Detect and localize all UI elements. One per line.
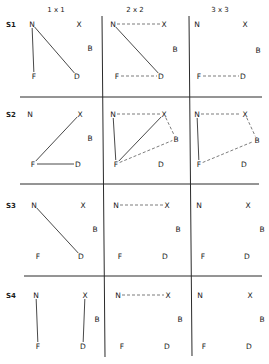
node-f: F <box>118 252 122 261</box>
node-x: X <box>247 291 252 300</box>
node-x: X <box>245 201 250 210</box>
node-f: F <box>120 342 124 351</box>
edge-n-f-solid <box>113 118 116 160</box>
node-n: N <box>194 110 200 119</box>
node-f: F <box>201 252 205 261</box>
node-x: X <box>165 291 170 300</box>
node-b: B <box>172 45 177 54</box>
node-n: N <box>113 201 119 210</box>
node-f: F <box>36 342 40 351</box>
node-f: F <box>197 72 201 81</box>
node-n: N <box>31 201 37 210</box>
node-n: N <box>27 110 33 119</box>
node-b: B <box>87 134 92 143</box>
row-label: S3 <box>6 202 16 210</box>
node-x: X <box>76 20 81 29</box>
node-b: B <box>255 46 260 55</box>
node-b: B <box>254 136 259 145</box>
node-d: D <box>75 160 81 169</box>
network-cell: NXBFD <box>197 291 264 351</box>
node-d: D <box>80 342 86 351</box>
node-x: X <box>77 110 82 119</box>
node-f: F <box>114 160 118 169</box>
node-x: X <box>80 201 85 210</box>
edge-n-f-solid <box>32 28 34 72</box>
edge-n-f-solid <box>197 118 199 160</box>
edge-n-d-solid <box>35 27 75 73</box>
node-f: F <box>197 160 201 169</box>
node-b: B <box>87 44 92 53</box>
network-cell: NXBFD <box>31 201 97 261</box>
network-grid-diagram: 1 x 12 x 23 x 3 S1S2S3S4 NXBFDNXBFDNXBFD… <box>0 0 269 364</box>
node-x: X <box>164 201 169 210</box>
network-cell: NXBFD <box>194 110 259 169</box>
node-n: N <box>197 291 203 300</box>
column-header: 3 x 3 <box>211 6 229 14</box>
network-cell: NXBFD <box>113 201 180 261</box>
network-cell: NXBFD <box>194 20 260 81</box>
edge-n-f-solid <box>36 299 38 342</box>
node-x: X <box>242 110 247 119</box>
edge-f-x-solid <box>36 117 78 161</box>
network-cell: NXBFD <box>33 291 99 351</box>
node-b: B <box>173 135 178 144</box>
node-d: D <box>162 252 168 261</box>
row-label: S2 <box>6 111 16 119</box>
row-label: S1 <box>6 21 16 29</box>
column-header: 1 x 1 <box>47 6 65 14</box>
edge-x-d-solid <box>83 299 85 342</box>
node-x: X <box>161 20 166 29</box>
network-cell: NXBFD <box>29 20 92 81</box>
node-b: B <box>259 225 264 234</box>
network-cell: NXBFD <box>196 201 264 261</box>
edge-f-x-solid <box>119 117 161 161</box>
node-f: F <box>32 72 36 81</box>
column-divider <box>189 16 192 356</box>
node-n: N <box>194 20 200 29</box>
edge-n-d-solid <box>37 208 79 253</box>
node-d: D <box>244 252 250 261</box>
row-label: S4 <box>6 292 16 300</box>
node-b: B <box>177 315 182 324</box>
node-n: N <box>110 110 116 119</box>
node-d: D <box>158 72 164 81</box>
node-n: N <box>115 291 121 300</box>
network-cell: NXBFD <box>27 110 92 169</box>
node-d: D <box>164 342 170 351</box>
node-x: X <box>242 20 247 29</box>
column-divider <box>102 16 105 357</box>
node-b: B <box>92 225 97 234</box>
node-f: F <box>202 342 206 351</box>
grid-lines <box>20 16 262 357</box>
node-f: F <box>115 72 119 81</box>
node-f: F <box>31 160 35 169</box>
edge-n-d-solid <box>116 27 159 73</box>
node-b: B <box>94 315 99 324</box>
node-b: B <box>175 225 180 234</box>
node-x: X <box>161 110 166 119</box>
edge-x-b-dashed <box>166 118 175 136</box>
node-d: D <box>240 72 246 81</box>
node-x: X <box>82 291 87 300</box>
network-cell: NXBFD <box>110 20 177 81</box>
node-f: F <box>36 252 40 261</box>
node-n: N <box>33 291 39 300</box>
column-headers: 1 x 12 x 23 x 3 <box>47 6 229 14</box>
edge-x-b-dashed <box>247 118 256 137</box>
cells: NXBFDNXBFDNXBFDNXBFDNXBFDNXBFDNXBFDNXBFD… <box>27 20 264 351</box>
column-header: 2 x 2 <box>126 6 144 14</box>
node-b: B <box>259 315 264 324</box>
node-d: D <box>74 72 80 81</box>
node-n: N <box>110 20 116 29</box>
node-n: N <box>196 201 202 210</box>
network-cell: NXBFD <box>110 110 178 169</box>
node-d: D <box>78 252 84 261</box>
node-d: D <box>246 342 252 351</box>
node-n: N <box>29 20 35 29</box>
node-d: D <box>158 160 164 169</box>
network-cell: NXBFD <box>115 291 182 351</box>
row-labels: S1S2S3S4 <box>6 21 16 300</box>
node-d: D <box>241 160 247 169</box>
